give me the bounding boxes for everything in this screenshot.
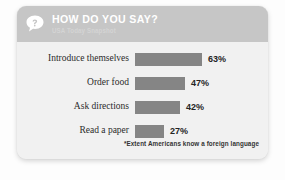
bar-zone: 27% bbox=[135, 125, 188, 138]
bar-category-label: Read a paper bbox=[17, 126, 135, 136]
screenshot-stage: HOW DO YOU SAY? USA Today Snapshot Intro… bbox=[0, 0, 285, 180]
bar-category-label: Order food bbox=[17, 78, 135, 88]
bar-zone: 47% bbox=[135, 77, 209, 90]
bar-zone: 63% bbox=[135, 53, 226, 66]
bar-chart: Introduce themselves 63% Order food 47% … bbox=[17, 49, 268, 141]
card-header: HOW DO YOU SAY? USA Today Snapshot bbox=[17, 6, 268, 42]
speech-bubble-question-icon bbox=[25, 14, 45, 34]
header-text-block: HOW DO YOU SAY? USA Today Snapshot bbox=[52, 14, 167, 35]
bar-value-label: 27% bbox=[170, 127, 188, 136]
bar-fill bbox=[135, 77, 185, 90]
bar-row: Read a paper 27% bbox=[17, 121, 268, 141]
bar-value-label: 42% bbox=[186, 103, 204, 112]
bar-zone: 42% bbox=[135, 101, 204, 114]
bar-value-label: 47% bbox=[191, 79, 209, 88]
page-title: HOW DO YOU SAY? bbox=[52, 14, 158, 26]
header-subtitle: USA Today Snapshot bbox=[52, 28, 162, 35]
card-body: Introduce themselves 63% Order food 47% … bbox=[17, 42, 268, 159]
infographic-card: HOW DO YOU SAY? USA Today Snapshot Intro… bbox=[17, 6, 268, 159]
bar-row: Ask directions 42% bbox=[17, 97, 268, 117]
bar-category-label: Introduce themselves bbox=[17, 54, 135, 64]
bar-fill bbox=[135, 101, 180, 114]
bar-fill bbox=[135, 53, 202, 66]
bar-fill bbox=[135, 125, 164, 138]
chart-footnote: *Extent Americans know a foreign languag… bbox=[124, 140, 259, 147]
bar-value-label: 63% bbox=[208, 55, 226, 64]
bar-category-label: Ask directions bbox=[17, 102, 135, 112]
bar-row: Order food 47% bbox=[17, 73, 268, 93]
bar-row: Introduce themselves 63% bbox=[17, 49, 268, 69]
